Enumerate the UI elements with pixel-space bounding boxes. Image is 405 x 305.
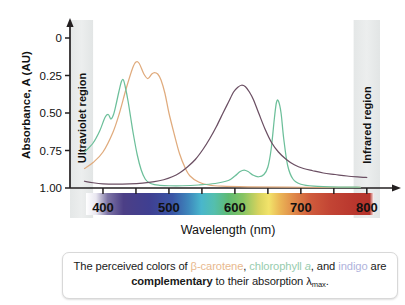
x-tick-label-6: 700 xyxy=(290,200,312,215)
caption-part-1: The perceived colors of xyxy=(74,260,191,272)
caption-species-carotene: β-carotene xyxy=(191,260,244,272)
x-axis-label: Wavelength (nm) xyxy=(181,223,276,237)
y-tick-label-3: 0.25 xyxy=(40,70,62,82)
caption-text: The perceived colors of β-carotene, chlo… xyxy=(63,259,397,292)
ir-region-label: Infrared region xyxy=(361,86,373,164)
absorbance-plot: 1.000.750.500.250400500600700800Absorban… xyxy=(0,0,405,248)
x-tick-label-0: 400 xyxy=(92,200,114,215)
y-tick-label-2: 0.50 xyxy=(40,107,62,119)
y-axis-label: Absorbance, A (AU) xyxy=(20,51,32,159)
caption-part-4: . xyxy=(326,275,329,287)
x-tick-label-8: 800 xyxy=(356,200,378,215)
caption-emphasis: complementary xyxy=(131,275,212,287)
uv-region-label: Ultraviolet region xyxy=(76,72,88,163)
caption-part-3: to their absorption λ xyxy=(213,275,312,287)
y-tick-label-4: 0 xyxy=(56,32,62,44)
x-axis-arrowhead xyxy=(392,184,401,191)
caption-box: The perceived colors of β-carotene, chlo… xyxy=(62,252,398,299)
series-curve--carotene xyxy=(85,62,361,188)
series-curve-indigo xyxy=(85,85,367,184)
x-tick-label-2: 500 xyxy=(158,200,180,215)
caption-species-indigo: indigo xyxy=(338,260,367,272)
caption-species-chlorophyll: chlorophyll a xyxy=(249,260,311,272)
absorption-spectrum-figure: 1.000.750.500.250400500600700800Absorban… xyxy=(0,0,405,305)
caption-chlorophyll-word: chlorophyll xyxy=(249,260,304,272)
caption-lambda-subscript: max xyxy=(312,280,326,289)
series-curve-chlorophyll-a xyxy=(85,80,361,188)
y-tick-label-0: 1.00 xyxy=(40,182,62,194)
y-tick-label-1: 0.75 xyxy=(40,145,62,157)
x-tick-label-4: 600 xyxy=(224,200,246,215)
caption-sep-2: , and xyxy=(311,260,338,272)
chart-area: 1.000.750.500.250400500600700800Absorban… xyxy=(0,0,405,248)
caption-part-2: are xyxy=(368,260,387,272)
